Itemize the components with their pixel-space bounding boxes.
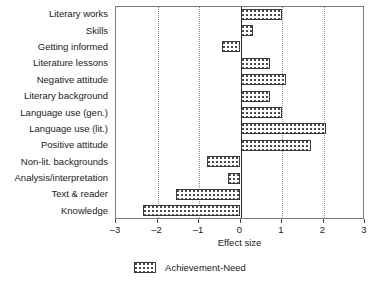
legend-swatch-icon	[134, 262, 156, 273]
x-tick-label: 1	[278, 224, 283, 235]
legend-item-label: Achievement-Need	[165, 262, 246, 273]
bar-row	[116, 73, 363, 88]
bar-row	[116, 8, 363, 23]
bar	[241, 107, 283, 118]
category-label: Literary background	[0, 91, 108, 101]
bar	[241, 91, 270, 102]
category-label: Literature lessons	[0, 58, 108, 68]
bar-row	[116, 24, 363, 39]
bar-row	[116, 204, 363, 219]
bar	[222, 41, 241, 52]
bar-row	[116, 122, 363, 137]
category-label: Getting informed	[0, 42, 108, 52]
bar-row	[116, 40, 363, 55]
category-label: Language use (gen.)	[0, 108, 108, 118]
category-label: Negative attitude	[0, 75, 108, 85]
x-tick	[115, 219, 116, 223]
bar	[241, 9, 283, 20]
x-axis-title: Effect size	[115, 237, 364, 248]
category-axis: Literary worksSkillsGetting informedLite…	[0, 6, 112, 219]
x-tick	[281, 219, 282, 223]
category-label: Non-lit. backgrounds	[0, 157, 108, 167]
bar	[176, 189, 240, 200]
bar-row	[116, 155, 363, 170]
x-tick	[198, 219, 199, 223]
category-label: Knowledge	[0, 206, 108, 216]
bar	[241, 140, 312, 151]
x-tick-label: –2	[151, 224, 162, 235]
x-tick	[364, 219, 365, 223]
x-tick	[323, 219, 324, 223]
bar	[241, 123, 326, 134]
x-tick-label: –3	[110, 224, 121, 235]
bar-row	[116, 139, 363, 154]
category-label: Literary works	[0, 9, 108, 19]
bar	[241, 74, 287, 85]
x-tick	[157, 219, 158, 223]
x-tick-label: –1	[193, 224, 204, 235]
bar	[207, 156, 240, 167]
x-tick-label: 0	[237, 224, 242, 235]
chart-legend: Achievement-Need	[0, 262, 380, 273]
effect-size-bar-chart: Literary worksSkillsGetting informedLite…	[0, 0, 380, 283]
bar	[228, 173, 240, 184]
bar-row	[116, 188, 363, 203]
category-label: Positive attitude	[0, 140, 108, 150]
bar	[241, 25, 253, 36]
x-tick-label: 3	[361, 224, 366, 235]
bar-row	[116, 106, 363, 121]
category-label: Analysis/interpretation	[0, 173, 108, 183]
x-tick-label: 2	[320, 224, 325, 235]
x-tick	[240, 219, 241, 223]
bar-row	[116, 172, 363, 187]
bar	[143, 205, 241, 216]
bar-row	[116, 90, 363, 105]
category-label: Language use (lit.)	[0, 124, 108, 134]
category-label: Skills	[0, 26, 108, 36]
category-label: Text & reader	[0, 189, 108, 199]
bar-row	[116, 57, 363, 72]
plot-area	[115, 6, 364, 219]
bar	[241, 58, 270, 69]
legend-item-achievement-need: Achievement-Need	[134, 262, 246, 273]
x-axis: Effect size –3–2–10123	[115, 219, 364, 249]
